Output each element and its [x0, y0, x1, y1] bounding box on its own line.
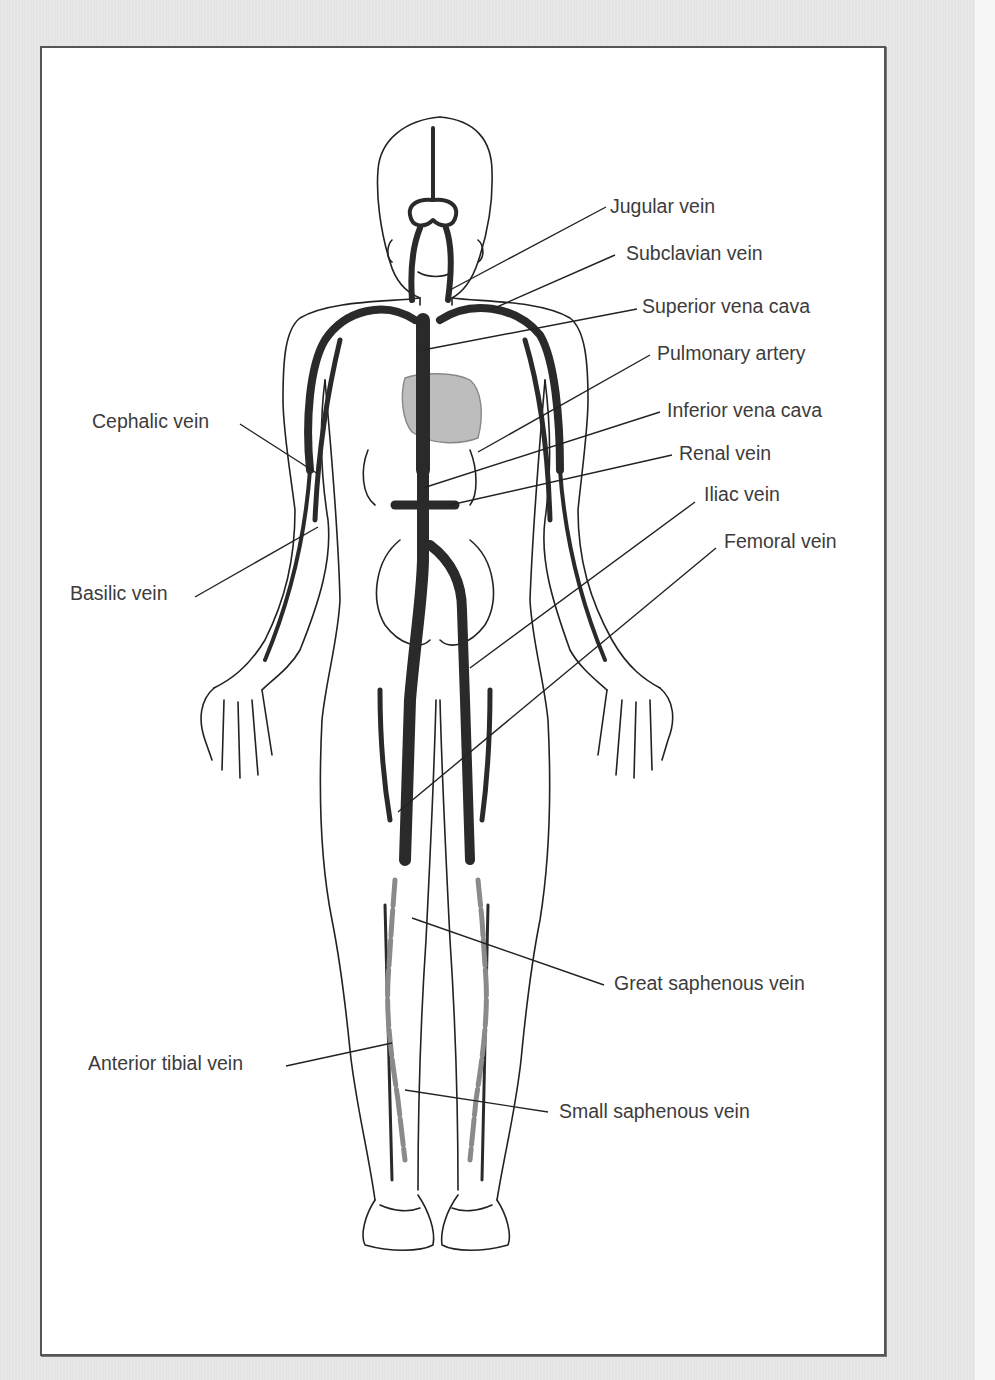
label-jugular-vein: Jugular vein	[610, 197, 715, 217]
venous-system-diagram	[0, 0, 995, 1380]
label-cephalic-vein: Cephalic vein	[92, 412, 209, 432]
label-femoral-vein: Femoral vein	[724, 532, 837, 552]
label-subclavian-vein: Subclavian vein	[626, 244, 763, 264]
label-small-saphenous-vein: Small saphenous vein	[559, 1102, 750, 1122]
label-superior-vena-cava: Superior vena cava	[642, 297, 810, 317]
heart-shape	[402, 374, 481, 443]
label-great-saphenous-vein: Great saphenous vein	[614, 974, 805, 994]
label-inferior-vena-cava: Inferior vena cava	[667, 401, 822, 421]
body-outline	[201, 117, 673, 1250]
deep-veins	[265, 128, 605, 1180]
label-anterior-tibial-vein: Anterior tibial vein	[88, 1054, 243, 1074]
label-renal-vein: Renal vein	[679, 444, 771, 464]
label-basilic-vein: Basilic vein	[70, 584, 168, 604]
label-pulmonary-artery: Pulmonary artery	[657, 344, 805, 364]
label-iliac-vein: Iliac vein	[704, 485, 780, 505]
superficial-veins	[388, 880, 487, 1160]
